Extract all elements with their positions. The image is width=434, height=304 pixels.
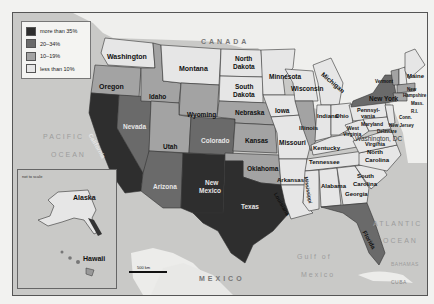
label-kansas: Kansas <box>245 137 268 144</box>
legend-label: 20–34% <box>40 41 60 47</box>
label-new-hampshire-1: New <box>407 87 416 92</box>
label-pacific-ocean: OCEAN <box>51 151 86 158</box>
label-new-mexico-2: Mexico <box>199 187 221 194</box>
label-wyoming: Wyoming <box>187 111 216 118</box>
label-new-jersey: New Jersey <box>389 123 414 128</box>
label-atlantic-ocean: OCEAN <box>383 237 418 244</box>
label-new-york: New York <box>369 95 398 102</box>
legend-swatch <box>26 64 36 73</box>
legend-swatch <box>26 39 36 48</box>
label-ohio: Ohio <box>335 113 349 119</box>
label-minnesota: Minnesota <box>269 73 301 80</box>
label-west-virginia-2: Virginia <box>343 131 361 137</box>
label-colorado: Colorado <box>201 137 230 144</box>
label-mexico: MEXICO <box>199 275 245 282</box>
legend-item-10-19: 10–19% <box>26 50 86 63</box>
label-maryland: Maryland <box>361 121 383 127</box>
label-washington: Washington <box>107 53 147 60</box>
label-pacific: PACIFIC <box>43 133 84 140</box>
label-arkansas: Arkansas <box>277 177 304 183</box>
state-arizona <box>141 151 183 208</box>
scale-label: 500 km <box>137 265 150 270</box>
label-arizona: Arizona <box>153 183 177 190</box>
map-legend: more than 35% 20–34% 10–19% less than 10… <box>21 21 91 79</box>
map-frame: more than 35% 20–34% 10–19% less than 10… <box>12 12 428 296</box>
label-utah: Utah <box>163 143 177 150</box>
legend-item-20-34: 20–34% <box>26 38 86 51</box>
label-oklahoma: Oklahoma <box>247 165 278 172</box>
label-bahamas: BAHAMAS <box>391 261 419 267</box>
label-canada: CANADA <box>201 38 249 45</box>
legend-item-less-than-10: less than 10% <box>26 63 86 76</box>
label-massachusetts: Mass. <box>411 101 424 106</box>
inset-note: not to scale <box>22 174 42 179</box>
label-vermont: Vermont <box>375 79 393 84</box>
label-maine: Maine <box>407 73 424 79</box>
legend-swatch <box>26 52 36 61</box>
legend-label: less than 10% <box>40 66 75 72</box>
legend-item-more-than-35: more than 35% <box>26 25 86 38</box>
label-connecticut: Conn. <box>399 115 412 120</box>
label-gulf: Gulf of <box>297 253 332 260</box>
inset-map <box>18 170 116 288</box>
label-gulf-mexico: Mexico <box>301 271 335 278</box>
label-north-dakota-1: North <box>235 55 252 62</box>
label-atlantic: ATLANTIC <box>373 220 422 227</box>
label-virginia: Virginia <box>365 141 385 147</box>
label-pennsylvania-2: vania <box>361 113 375 119</box>
state-oregon <box>91 65 141 97</box>
label-north-carolina-2: Carolina <box>365 157 389 163</box>
scale-bar <box>129 271 167 273</box>
label-delaware: Delaware <box>377 129 397 134</box>
label-south-dakota-2: Dakota <box>233 91 255 98</box>
legend-swatch <box>26 27 36 36</box>
label-south-dakota-1: South <box>235 83 253 90</box>
alaska-hawaii-inset: not to scale <box>17 169 117 289</box>
label-georgia: Georgia <box>345 191 368 197</box>
state-new-mexico <box>181 153 225 213</box>
label-north-dakota-2: Dakota <box>233 63 255 70</box>
label-texas: Texas <box>241 203 259 210</box>
label-south-carolina-2: Carolina <box>353 181 377 187</box>
label-wisconsin: Wisconsin <box>291 85 323 92</box>
label-new-mexico-1: New <box>205 179 218 186</box>
label-rhode-island: R.I. <box>411 109 418 114</box>
state-indiana <box>315 105 331 141</box>
label-missouri: Missouri <box>279 139 306 146</box>
label-north-carolina-1: North <box>367 149 383 155</box>
label-nevada: Nevada <box>123 123 146 130</box>
label-hawaii: Hawaii <box>83 255 105 262</box>
label-new-hampshire-2: Hampshire <box>403 93 426 98</box>
label-montana: Montana <box>179 65 208 72</box>
legend-label: more than 35% <box>40 28 77 34</box>
label-cuba: CUBA <box>391 279 407 285</box>
label-iowa: Iowa <box>275 107 289 114</box>
label-alaska: Alaska <box>73 194 96 201</box>
label-kentucky: Kentucky <box>313 145 340 151</box>
label-idaho: Idaho <box>149 93 166 100</box>
label-illinois: Illinois <box>299 125 318 131</box>
label-tennessee: Tennessee <box>309 159 340 165</box>
legend-label: 10–19% <box>40 53 60 59</box>
label-nebraska: Nebraska <box>235 109 264 116</box>
label-oregon: Oregon <box>99 83 124 90</box>
label-alabama: Alabama <box>321 183 346 189</box>
state-colorado <box>189 117 235 155</box>
label-south-carolina-1: South <box>357 173 374 179</box>
